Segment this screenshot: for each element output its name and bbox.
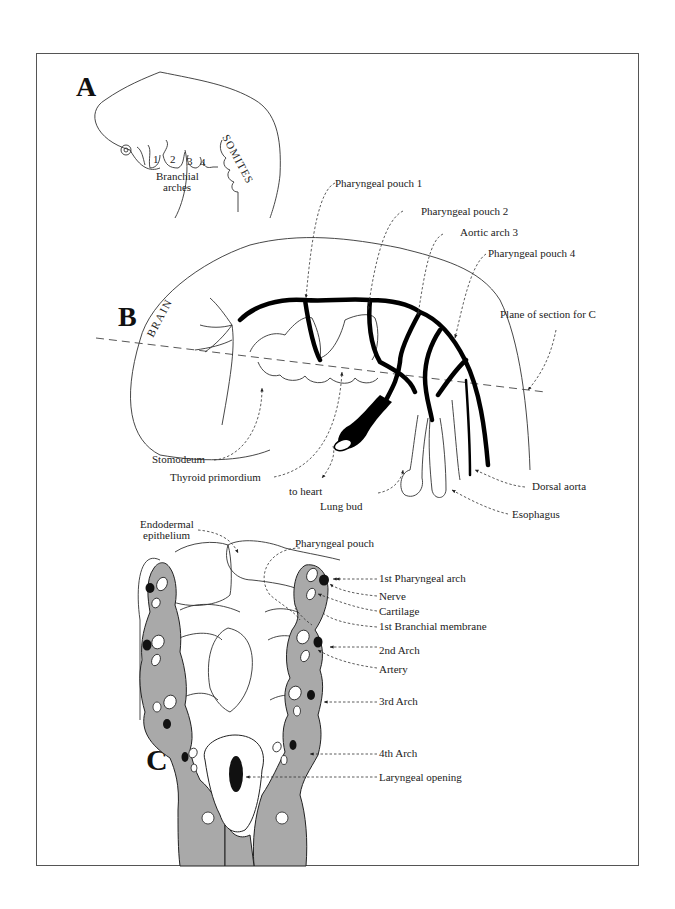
aortic-arches	[240, 299, 488, 465]
lung-bud-tube	[401, 415, 428, 496]
label-lung-bud: Lung bud	[320, 500, 363, 512]
label-pharyngeal-pouch-2: Pharyngeal pouch 2	[421, 205, 508, 217]
label-esophagus: Esophagus	[512, 508, 560, 520]
nerve-branches	[195, 298, 233, 425]
dorsal-aorta	[466, 380, 470, 475]
heart-connection	[333, 437, 353, 453]
label-artery: Artery	[379, 663, 408, 675]
label-stomodeum: Stomodeum	[152, 453, 206, 465]
label-thyroid-primordium: Thyroid primordium	[170, 471, 261, 483]
embryology-figure: A 1 2 3 4 Branchial arches SOMITES B BRA…	[0, 0, 675, 909]
arch-number-1: 1	[153, 153, 159, 165]
label-2nd-arch: 2nd Arch	[379, 644, 420, 656]
panel-a-letter: A	[76, 71, 97, 102]
panel-a: A 1 2 3 4 Branchial arches SOMITES	[76, 71, 280, 218]
label-pharyngeal-pouch-4: Pharyngeal pouch 4	[488, 247, 576, 259]
label-4th-arch: 4th Arch	[379, 747, 418, 759]
esophagus-tube	[429, 418, 446, 498]
label-1st-branchial-membrane: 1st Branchial membrane	[379, 620, 487, 632]
laryngeal-opening	[229, 756, 243, 792]
label-plane-of-section: Plane of section for C	[500, 308, 596, 320]
label-pharyngeal-pouch: Pharyngeal pouch	[295, 537, 375, 549]
arch-number-4: 4	[200, 156, 206, 168]
branchial-arches-label-line2: arches	[163, 181, 191, 193]
label-cartilage: Cartilage	[379, 605, 419, 617]
label-endodermal-epithelium-line2: epithelium	[143, 529, 190, 541]
label-nerve: Nerve	[379, 590, 406, 602]
label-dorsal-aorta: Dorsal aorta	[532, 480, 586, 492]
label-3rd-arch: 3rd Arch	[379, 695, 418, 707]
label-aortic-arch-3: Aortic arch 3	[460, 226, 519, 238]
label-1st-pharyngeal-arch: 1st Pharyngeal arch	[379, 572, 466, 584]
panel-b: B BRAIN Pharyngeal pouch 1	[96, 177, 596, 520]
tongue-swelling	[208, 628, 252, 712]
arch-number-2: 2	[170, 153, 176, 165]
panel-b-letter: B	[118, 301, 137, 332]
branchial-arches-outline	[137, 140, 218, 168]
panel-c: C	[138, 518, 486, 866]
label-to-heart: to heart	[289, 485, 322, 497]
label-laryngeal-opening: Laryngeal opening	[379, 771, 462, 783]
label-pharyngeal-pouch-1: Pharyngeal pouch 1	[335, 177, 422, 189]
arch-number-3: 3	[187, 155, 193, 167]
brain-label: BRAIN	[144, 296, 174, 338]
embryo-outline-a	[95, 72, 281, 218]
